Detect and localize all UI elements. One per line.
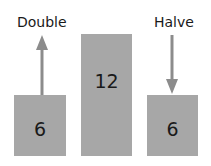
- right-box: 6: [147, 95, 198, 156]
- left-box-value: 6: [34, 118, 46, 140]
- down-arrow-icon: [166, 35, 178, 94]
- left-box: 6: [14, 95, 66, 156]
- right-box-value: 6: [166, 118, 178, 140]
- middle-box-value: 12: [94, 70, 118, 92]
- middle-box: 12: [81, 34, 132, 156]
- up-arrow-icon: [36, 35, 48, 95]
